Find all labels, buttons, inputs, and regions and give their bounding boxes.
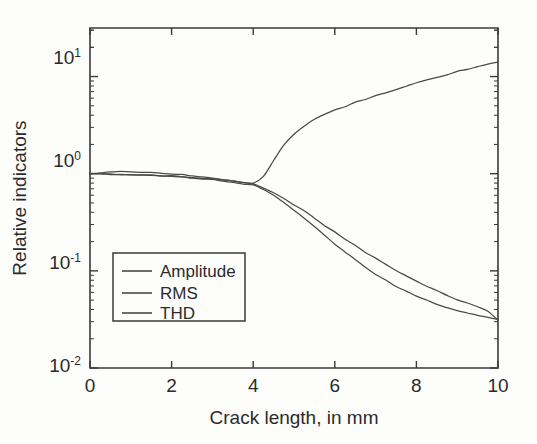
legend-label-rms: RMS (160, 284, 198, 303)
x-tick-label: 8 (411, 375, 422, 396)
x-tick-label: 6 (330, 375, 341, 396)
chart-background (0, 0, 537, 444)
legend-label-thd: THD (160, 304, 195, 323)
figure-container: 0 2 4 6 8 10 101 100 10-1 10-2 Crack len… (0, 0, 537, 444)
relative-indicators-line-chart: 0 2 4 6 8 10 101 100 10-1 10-2 Crack len… (0, 0, 537, 444)
legend: Amplitude RMS THD (113, 253, 245, 323)
legend-label-amplitude: Amplitude (160, 262, 236, 281)
x-axis-title: Crack length, in mm (210, 407, 379, 428)
x-tick-label: 0 (85, 375, 96, 396)
x-tick-label: 10 (487, 375, 508, 396)
y-axis-title: Relative indicators (9, 120, 30, 275)
x-tick-label: 2 (166, 375, 177, 396)
x-tick-label: 4 (248, 375, 259, 396)
